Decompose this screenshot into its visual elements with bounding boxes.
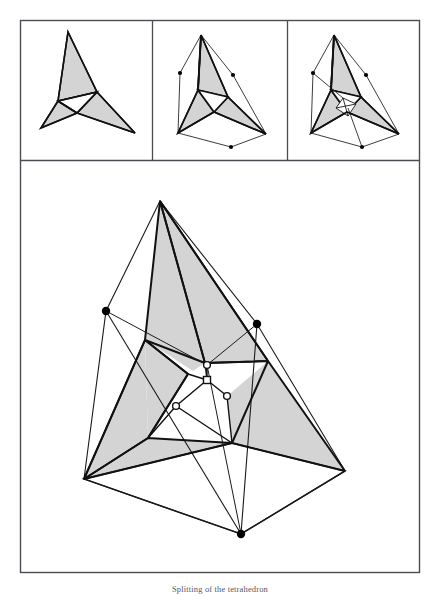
panel3-fold-dot-left	[311, 71, 315, 75]
panel3-fold-dot-bottom	[360, 145, 364, 149]
main-vertex-dot-right	[253, 320, 261, 328]
main-center-marker-left	[173, 403, 180, 410]
panel2-fold-dot-bottom	[229, 145, 233, 149]
figure-page: Splitting of the tetrahedron	[0, 0, 440, 596]
panel3-fold-dot-right	[364, 73, 368, 77]
main-center-marker-right	[224, 393, 231, 400]
panel2-fold-dot-right	[231, 73, 235, 77]
panel2-fold-dot-left	[178, 71, 182, 75]
main-center-marker-top	[204, 362, 211, 369]
main-center-marker-square	[204, 377, 211, 384]
figure-caption: Splitting of the tetrahedron	[0, 583, 440, 596]
main-vertex-dot-bottom	[237, 530, 245, 538]
figure-svg	[0, 0, 440, 596]
main-vertex-dot-left	[102, 307, 110, 315]
